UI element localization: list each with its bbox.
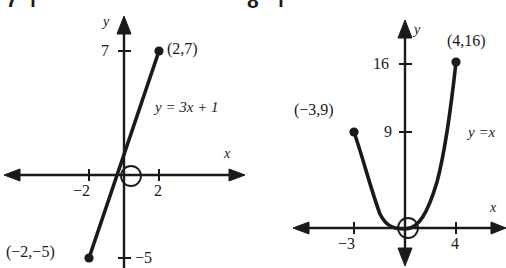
y-tick-label-16: 16 (373, 55, 389, 73)
equation-label-quadratic: y =x (468, 124, 495, 141)
exercise-bar-right: | (278, 0, 288, 7)
linear-graph-svg (0, 0, 253, 268)
x-axis-label: x (490, 200, 496, 216)
endpoint-dot-neg3-9 (349, 127, 358, 136)
y-tick-label-neg5: −5 (135, 249, 152, 267)
equation-label-linear: y = 3x + 1 (155, 99, 219, 116)
exercise-number-left: 7 (6, 0, 22, 7)
y-tick-label-7: 7 (101, 42, 109, 60)
x-tick-label-neg3: −3 (338, 235, 355, 253)
x-tick-label-neg2: −2 (73, 182, 90, 200)
point-label-2-7: (2,7) (167, 40, 198, 58)
graph-panel-quadratic: y x 16 9 −3 4 (−3,9) (4,16) y =x (253, 0, 506, 268)
x-tick-label-2: 2 (154, 182, 162, 200)
y-tick-label-9: 9 (384, 123, 392, 141)
point-label-4-16: (4,16) (447, 32, 486, 50)
x-tick-label-4: 4 (451, 235, 459, 253)
exercise-number-right: 8 (247, 0, 265, 8)
x-axis-label: x (224, 146, 230, 162)
figure-root: y x 7 −5 −2 2 (2,7) (−2,−5) y = 3x + 1 (0, 0, 506, 268)
endpoint-dot-neg2-neg5 (84, 253, 93, 262)
y-axis-label: y (414, 22, 420, 38)
exercise-bar-left: | (30, 0, 40, 7)
point-label-neg2-neg5: (−2,−5) (6, 243, 55, 261)
endpoint-dot-2-7 (154, 46, 163, 55)
endpoint-dot-4-16 (451, 57, 460, 66)
graph-panel-linear: y x 7 −5 −2 2 (2,7) (−2,−5) y = 3x + 1 (0, 0, 253, 268)
y-axis-label: y (103, 14, 109, 30)
point-label-neg3-9: (−3,9) (294, 101, 334, 119)
